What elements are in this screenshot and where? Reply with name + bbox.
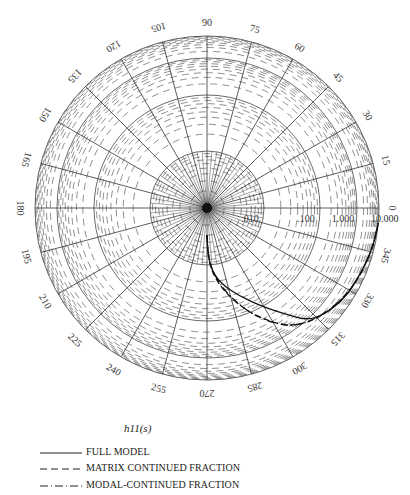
polar-plot: 0153045607590105120135150165180195210225… — [0, 0, 410, 420]
angle-tick-label: 345 — [379, 247, 394, 264]
radial-tick-label: 1.000 — [332, 213, 355, 224]
legend-label: MATRIX CONTINUED FRACTION — [86, 462, 240, 473]
angle-tick-label: 150 — [37, 106, 54, 124]
angle-tick-label: 165 — [20, 151, 35, 168]
dashed-line-icon — [40, 464, 82, 470]
angular-spokes — [35, 36, 379, 380]
angle-tick-label: 135 — [66, 67, 84, 85]
angle-tick-label: 315 — [329, 330, 347, 348]
angle-tick-label: 225 — [66, 331, 84, 349]
dash-dot-line-icon — [40, 481, 82, 487]
legend-label: FULL MODEL — [86, 446, 150, 457]
angle-tick-label: 270 — [200, 388, 215, 399]
angle-tick-label: 240 — [105, 361, 123, 378]
angle-tick-label: 0 — [387, 206, 398, 211]
legend-item-full-model: FULL MODEL — [40, 444, 150, 458]
solid-line-icon — [40, 448, 82, 454]
angle-tick-label: 15 — [380, 154, 393, 167]
angle-tick-label: 180 — [15, 201, 26, 216]
angle-tick-label: 255 — [150, 381, 167, 396]
legend-item-modal-continued-fraction: MODAL-CONTINUED FRACTION — [40, 477, 239, 491]
angle-tick-label: 45 — [331, 69, 346, 84]
radial-tick-label: .010 — [241, 213, 259, 224]
legend-label: MODAL-CONTINUED FRACTION — [86, 479, 239, 490]
radial-tick-label: .100 — [297, 213, 315, 224]
angle-tick-label: 105 — [150, 21, 167, 36]
angle-tick-label: 285 — [246, 380, 263, 395]
angle-tick-label: 30 — [360, 108, 375, 122]
legend-title: h11(s) — [124, 422, 151, 434]
radial-tick-label: 10.000 — [371, 213, 399, 224]
angle-tick-label: 210 — [37, 292, 54, 310]
angle-tick-label: 300 — [291, 360, 309, 377]
angle-tick-label: 60 — [293, 40, 307, 55]
angle-tick-label: 120 — [105, 38, 123, 55]
legend-item-matrix-continued-fraction: MATRIX CONTINUED FRACTION — [40, 460, 240, 474]
angle-tick-label: 195 — [20, 248, 35, 265]
angle-tick-label: 75 — [249, 22, 262, 35]
angle-tick-label: 330 — [359, 292, 376, 310]
angle-tick-label: 90 — [202, 17, 212, 28]
